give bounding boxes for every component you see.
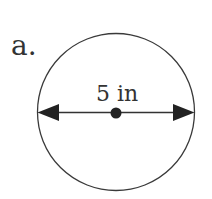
diagram-canvas: a. 5 in (0, 0, 212, 199)
left-arrowhead-icon (38, 104, 60, 121)
right-arrowhead-icon (173, 104, 195, 121)
diameter-measurement: 5 in (96, 81, 138, 106)
circle-diagram: a. 5 in (0, 0, 212, 199)
problem-label: a. (11, 29, 37, 62)
center-point (111, 108, 122, 119)
